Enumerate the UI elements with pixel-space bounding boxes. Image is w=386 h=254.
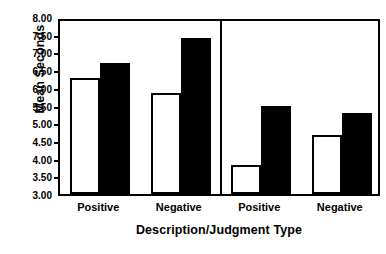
y-axis-tick-labels: 8.007.507.006.506.005.505.004.504.003.50… [14,19,52,196]
plot-area [58,19,380,196]
bar-open [231,165,261,194]
y-axis-tick-label: 8.00 [14,14,52,24]
x-axis-tick-label: Positive [238,201,280,213]
x-axis-tick-labels: PositiveNegativePositiveNegative [58,201,380,217]
y-axis-tick-label: 4.50 [14,138,52,148]
panel-divider [220,21,222,194]
y-axis-tick-label: 6.00 [14,85,52,95]
bar-filled [261,106,291,194]
bar-filled [181,38,211,194]
y-axis-tick-label: 5.50 [14,103,52,113]
bar-open [70,78,100,194]
y-axis-tick-label: 7.50 [14,32,52,42]
y-axis-tick-label: 6.50 [14,67,52,77]
bar-open [151,93,181,194]
bar-open [312,135,342,194]
x-axis-tick-label: Negative [317,201,363,213]
bar-filled [342,113,372,194]
x-axis-title: Description/Judgment Type [58,223,380,237]
y-axis-tick-label: 7.00 [14,49,52,59]
bar-filled [100,63,130,194]
bar-chart-figure: Mean Seconds 8.007.507.006.506.005.505.0… [0,0,386,254]
y-axis-tick-label: 3.50 [14,173,52,183]
y-axis-tick-label: 5.00 [14,120,52,130]
y-axis-tick-label: 4.00 [14,156,52,166]
plot-inner [60,21,378,194]
x-axis-tick-label: Positive [77,201,119,213]
x-axis-tick-label: Negative [156,201,202,213]
y-axis-tick-label: 3.00 [14,191,52,201]
